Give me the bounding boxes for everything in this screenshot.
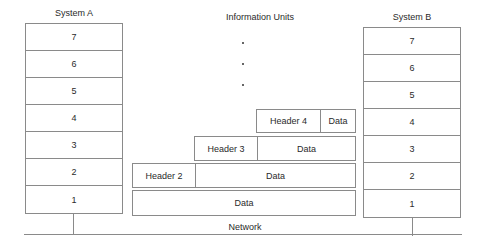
system-a-layer-6: 6 [26, 51, 122, 78]
system-a-layer-2: 2 [26, 159, 122, 186]
system-b-layer-5: 5 [364, 82, 460, 109]
system-a-layer-5: 5 [26, 78, 122, 105]
system-a-layer-7: 7 [26, 24, 122, 51]
system-a-stack: 7 6 5 4 3 2 1 [25, 23, 123, 214]
network-label: Network [200, 222, 290, 232]
system-b-layer-4: 4 [364, 109, 460, 136]
header-2-cell: Header 2 [133, 164, 195, 187]
system-a-network-connector [73, 214, 74, 234]
system-b-layer-3: 3 [364, 136, 460, 163]
header-4-cell: Header 4 [257, 110, 320, 132]
system-b-layer-1: 1 [364, 190, 460, 217]
ellipsis-dot [242, 84, 244, 86]
data-cell: Data [257, 137, 355, 160]
information-unit-layer-4: Header 4 Data [256, 109, 356, 133]
system-a-layer-1: 1 [26, 186, 122, 213]
information-unit-layer-3: Header 3 Data [194, 136, 356, 161]
system-b-layer-6: 6 [364, 55, 460, 82]
data-cell: Data [195, 164, 355, 187]
header-3-cell: Header 3 [195, 137, 257, 160]
ellipsis-dot [242, 42, 244, 44]
data-cell: Data [320, 110, 355, 132]
system-b-stack: 7 6 5 4 3 2 1 [363, 27, 461, 218]
data-cell: Data [133, 191, 355, 215]
system-a-layer-3: 3 [26, 132, 122, 159]
system-a-layer-4: 4 [26, 105, 122, 132]
ellipsis-dot [242, 63, 244, 65]
system-b-layer-2: 2 [364, 163, 460, 190]
system-a-title: System A [25, 8, 123, 18]
information-units-title: Information Units [190, 12, 330, 22]
information-unit-layer-2: Header 2 Data [132, 163, 356, 188]
information-unit-layer-1: Data [132, 190, 356, 216]
system-b-title: System B [363, 12, 461, 22]
system-b-layer-7: 7 [364, 28, 460, 55]
network-line [24, 234, 462, 235]
